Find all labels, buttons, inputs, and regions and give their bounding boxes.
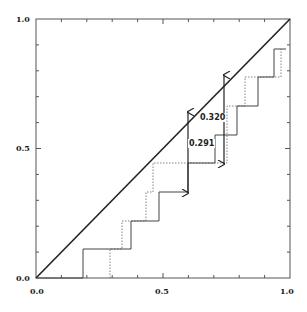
y-tick-label-bottom: 0.0 — [16, 273, 30, 283]
diagonal-line — [36, 19, 290, 278]
chart-plot — [0, 0, 307, 312]
annotation-0291: 0.291 — [188, 139, 215, 148]
x-tick-label-mid: 0.5 — [155, 286, 169, 296]
x-tick-label-left: 0.0 — [30, 286, 44, 296]
solid-step-series — [36, 49, 286, 278]
y-tick-label-mid: 0.5 — [16, 143, 30, 153]
annotation-0320: 0.320 — [199, 113, 226, 122]
x-tick-label-right: 1.0 — [280, 286, 294, 296]
y-tick-label-top: 1.0 — [16, 14, 30, 24]
